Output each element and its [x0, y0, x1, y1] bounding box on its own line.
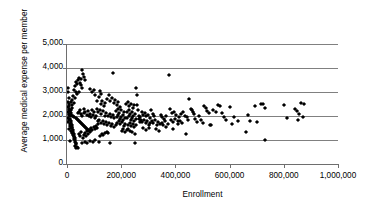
y-axis-tick-labels: 01,0002,0003,0004,0005,000: [26, 44, 63, 165]
data-point: [83, 78, 87, 82]
x-tick-mark: [121, 164, 122, 168]
data-point: [134, 86, 138, 90]
data-point: [218, 104, 222, 108]
y-tick-label: 1,000: [43, 134, 64, 143]
y-tick-label: 2,000: [43, 110, 64, 119]
x-tick-mark: [338, 164, 339, 168]
data-point: [263, 138, 267, 142]
data-point: [106, 131, 110, 135]
data-point: [147, 126, 151, 130]
x-tick-label: 0: [65, 171, 70, 180]
data-point: [157, 129, 161, 133]
data-point: [180, 121, 184, 125]
y-tick-label: 4,000: [43, 62, 64, 71]
data-point: [134, 123, 138, 127]
data-point: [133, 141, 137, 145]
data-point: [248, 119, 252, 123]
data-point: [133, 132, 137, 136]
gridline: [67, 68, 338, 69]
x-axis-ticks: [67, 164, 339, 169]
data-point: [116, 100, 120, 104]
y-tick-label: 3,000: [43, 86, 64, 95]
data-point: [166, 122, 170, 126]
data-point: [200, 121, 204, 125]
data-point: [184, 132, 188, 136]
data-point: [97, 140, 101, 144]
data-point: [108, 141, 112, 145]
scatter-chart: Average medical expense per member 01,00…: [0, 0, 375, 213]
x-axis-title: Enrollment: [67, 190, 338, 199]
gridline: [67, 140, 338, 141]
plot-area: [67, 44, 338, 164]
data-point: [230, 122, 234, 126]
data-point: [236, 119, 240, 123]
data-point: [255, 120, 259, 124]
data-point: [232, 115, 236, 119]
data-point: [252, 104, 256, 108]
data-point: [98, 134, 102, 138]
x-tick-mark: [67, 164, 68, 168]
data-point: [282, 103, 286, 107]
y-tick-label: 0: [58, 158, 63, 167]
x-tick-mark: [284, 164, 285, 168]
x-axis-tick-labels: 0200,000400,000600,000800,0001,000,000: [0, 171, 375, 183]
data-point: [296, 118, 300, 122]
data-point: [224, 118, 228, 122]
data-point: [227, 105, 231, 109]
gridline: [67, 44, 338, 45]
data-point: [263, 106, 267, 110]
data-point: [285, 116, 289, 120]
data-point: [187, 97, 191, 101]
x-tick-label: 400,000: [161, 171, 191, 180]
data-point: [213, 110, 217, 114]
data-point: [135, 93, 139, 97]
data-point: [111, 71, 115, 75]
data-point: [302, 102, 306, 106]
x-tick-label: 1,000,000: [320, 171, 356, 180]
x-tick-label: 600,000: [215, 171, 245, 180]
x-tick-label: 200,000: [106, 171, 136, 180]
x-tick-mark: [175, 164, 176, 168]
data-point: [207, 111, 211, 115]
data-point: [186, 118, 190, 122]
plot-frame: [67, 44, 338, 164]
data-point: [171, 127, 175, 131]
data-point: [301, 115, 305, 119]
data-point: [167, 73, 171, 77]
y-tick-label: 5,000: [43, 38, 64, 47]
x-tick-label: 800,000: [269, 171, 299, 180]
data-point: [80, 86, 84, 90]
x-tick-mark: [230, 164, 231, 168]
data-point: [244, 130, 248, 134]
y-axis-line: [66, 44, 67, 165]
